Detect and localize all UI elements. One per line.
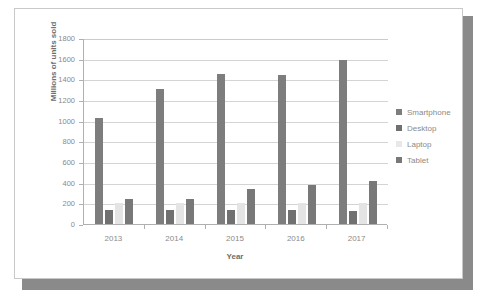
bar-smartphone-2015[interactable] (217, 74, 225, 224)
bar-group (156, 38, 194, 224)
y-tick-mark (79, 39, 83, 40)
y-tick-mark (79, 204, 83, 205)
y-tick-mark (79, 80, 83, 81)
y-tick-label: 1000 (41, 118, 75, 126)
y-tick-label: 1600 (41, 56, 75, 64)
x-tick-mark (326, 225, 327, 229)
bar-desktop-2013[interactable] (105, 210, 113, 224)
x-tick-label-2013: 2013 (83, 234, 144, 243)
legend-label: Laptop (407, 140, 431, 149)
legend-swatch-icon (396, 125, 402, 131)
legend-item-smartphone[interactable]: Smartphone (396, 104, 466, 120)
legend-label: Smartphone (407, 108, 451, 117)
bar-group (339, 38, 377, 224)
y-tick-mark (79, 101, 83, 102)
y-tick-label: 1800 (41, 35, 75, 43)
x-tick-label-2016: 2016 (265, 234, 326, 243)
y-tick-mark (79, 142, 83, 143)
x-tick-mark (387, 225, 388, 229)
y-tick-label: 0 (41, 221, 75, 229)
bar-desktop-2015[interactable] (227, 210, 235, 224)
bar-laptop-2017[interactable] (359, 203, 367, 224)
bar-tablet-2017[interactable] (369, 181, 377, 224)
x-tick-label-2017: 2017 (326, 234, 387, 243)
x-tick-mark (265, 225, 266, 229)
y-tick-label: 800 (41, 138, 75, 146)
bar-smartphone-2014[interactable] (156, 89, 164, 224)
x-tick-mark (144, 225, 145, 229)
bar-laptop-2014[interactable] (176, 203, 184, 224)
y-tick-mark (79, 60, 83, 61)
bar-smartphone-2017[interactable] (339, 60, 347, 224)
page-root: Millions of units sold 02004006008001000… (0, 0, 482, 296)
legend-item-desktop[interactable]: Desktop (396, 120, 466, 136)
legend-item-laptop[interactable]: Laptop (396, 136, 466, 152)
bar-laptop-2015[interactable] (237, 203, 245, 224)
y-tick-label: 1200 (41, 97, 75, 105)
bar-tablet-2013[interactable] (125, 199, 133, 224)
legend-swatch-icon (396, 109, 402, 115)
bar-laptop-2016[interactable] (298, 203, 306, 224)
x-tick-label-2014: 2014 (144, 234, 205, 243)
bar-smartphone-2013[interactable] (95, 118, 103, 224)
y-tick-label: 400 (41, 180, 75, 188)
chart-card: Millions of units sold 02004006008001000… (14, 8, 463, 279)
bar-tablet-2016[interactable] (308, 185, 316, 224)
x-tick-mark (205, 225, 206, 229)
bar-tablet-2015[interactable] (247, 189, 255, 224)
bar-desktop-2017[interactable] (349, 211, 357, 224)
plot-area (83, 39, 387, 225)
legend-label: Tablet (407, 156, 428, 165)
y-tick-mark (79, 163, 83, 164)
legend-swatch-icon (396, 141, 402, 147)
bar-smartphone-2016[interactable] (278, 75, 286, 224)
bar-group (95, 38, 133, 224)
bar-group (217, 38, 255, 224)
bar-desktop-2014[interactable] (166, 210, 174, 224)
y-tick-label: 200 (41, 200, 75, 208)
y-tick-mark (79, 184, 83, 185)
x-axis-title: Year (83, 252, 387, 261)
bar-tablet-2014[interactable] (186, 199, 194, 224)
y-tick-label: 1400 (41, 76, 75, 84)
bar-group (278, 38, 316, 224)
y-tick-mark (79, 225, 83, 226)
x-tick-label-2015: 2015 (205, 234, 266, 243)
y-tick-mark (79, 122, 83, 123)
chart-legend: SmartphoneDesktopLaptopTablet (396, 104, 466, 168)
y-tick-label: 600 (41, 159, 75, 167)
legend-label: Desktop (407, 124, 436, 133)
bar-laptop-2013[interactable] (115, 203, 123, 224)
bar-desktop-2016[interactable] (288, 210, 296, 224)
legend-swatch-icon (396, 157, 402, 163)
legend-item-tablet[interactable]: Tablet (396, 152, 466, 168)
bar-chart: Millions of units sold 02004006008001000… (15, 9, 464, 280)
